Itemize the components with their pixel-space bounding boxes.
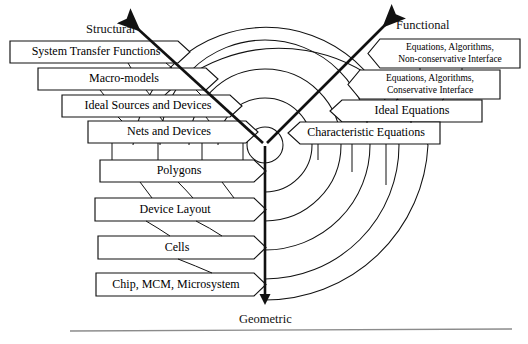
box-device-layout — [95, 198, 266, 221]
axis-label-functional: Functional — [396, 18, 449, 32]
box-equations-nonconservative — [368, 39, 520, 68]
box-nets-and-devices — [88, 121, 258, 143]
box-polygons — [100, 160, 266, 182]
box-cells — [98, 236, 266, 259]
structural-axis-boxes — [10, 41, 266, 296]
box-equations-conservative — [348, 70, 500, 99]
axis-label-geometric: Geometric — [239, 312, 292, 326]
box-ideal-equations — [330, 100, 482, 122]
y-chart-diagram — [0, 0, 528, 344]
figure-canvas: Structural Functional Geometric System T… — [0, 0, 528, 344]
page-rule — [70, 329, 512, 331]
axis-label-structural: Structural — [86, 22, 135, 36]
box-characteristic-equations — [288, 122, 440, 144]
box-chip-mcm-microsystem — [96, 273, 266, 296]
